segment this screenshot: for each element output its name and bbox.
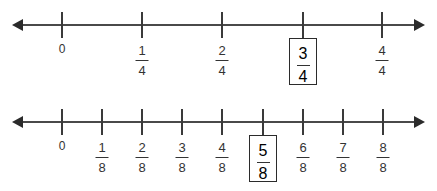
- tick-label-fraction: 44: [376, 44, 389, 77]
- fraction-denominator: 4: [136, 63, 149, 77]
- fraction: 68: [297, 141, 310, 174]
- tick-mark: [141, 109, 143, 135]
- fraction-bar: [136, 157, 149, 158]
- fraction: 48: [216, 141, 229, 174]
- tick-mark: [221, 109, 223, 135]
- tick-mark: [302, 12, 304, 38]
- fraction-denominator: 4: [297, 68, 310, 85]
- number-line-diagram: 01424344401828384858687888: [0, 0, 437, 191]
- fraction-numerator: 3: [297, 46, 310, 63]
- fraction-numerator: 3: [176, 141, 189, 155]
- tick-label-whole: 0: [59, 140, 66, 152]
- fraction-bar: [337, 157, 350, 158]
- arrow-right-icon: [414, 19, 425, 31]
- tick-label-fraction: 68: [297, 141, 310, 174]
- fraction-numerator: 1: [136, 44, 149, 58]
- highlighted-fraction-box: 58: [249, 135, 277, 182]
- fraction: 88: [377, 141, 390, 174]
- axis-line: [22, 24, 415, 26]
- fraction-bar: [96, 157, 109, 158]
- arrow-left-icon: [12, 116, 23, 128]
- fraction-bar: [377, 157, 390, 158]
- fraction-bar: [136, 60, 149, 61]
- fraction-denominator: 4: [376, 63, 389, 77]
- tick-mark: [141, 12, 143, 38]
- fraction: 34: [297, 46, 310, 85]
- fraction-numerator: 1: [96, 141, 109, 155]
- fraction-numerator: 8: [377, 141, 390, 155]
- tick-mark: [181, 109, 183, 135]
- fraction-numerator: 6: [297, 141, 310, 155]
- tick-label-fraction: 48: [216, 141, 229, 174]
- tick-label-whole: 0: [59, 43, 66, 55]
- fraction: 24: [216, 44, 229, 77]
- tick-mark: [381, 12, 383, 38]
- fraction-denominator: 8: [136, 160, 149, 174]
- fraction-denominator: 8: [216, 160, 229, 174]
- arrow-left-icon: [12, 19, 23, 31]
- fraction: 58: [257, 143, 270, 182]
- fraction-denominator: 4: [216, 63, 229, 77]
- highlighted-fraction-box: 34: [289, 38, 317, 85]
- tick-mark: [61, 12, 63, 38]
- tick-label-fraction: 24: [216, 44, 229, 77]
- fraction-bar: [297, 157, 310, 158]
- fraction-bar: [376, 60, 389, 61]
- fraction: 18: [96, 141, 109, 174]
- fraction: 38: [176, 141, 189, 174]
- fraction: 28: [136, 141, 149, 174]
- fraction-numerator: 2: [216, 44, 229, 58]
- tick-label-fraction: 38: [176, 141, 189, 174]
- arrow-right-icon: [414, 116, 425, 128]
- fraction-bar: [297, 65, 310, 66]
- fraction-bar: [257, 162, 270, 163]
- tick-mark: [221, 12, 223, 38]
- axis-line: [22, 121, 415, 123]
- fraction-numerator: 4: [216, 141, 229, 155]
- fraction: 44: [376, 44, 389, 77]
- fraction-numerator: 4: [376, 44, 389, 58]
- tick-label-fraction: 14: [136, 44, 149, 77]
- tick-label-fraction: 88: [377, 141, 390, 174]
- fraction-denominator: 8: [377, 160, 390, 174]
- tick-mark: [382, 109, 384, 135]
- fraction-denominator: 8: [257, 165, 270, 182]
- tick-mark: [342, 109, 344, 135]
- fraction: 78: [337, 141, 350, 174]
- tick-label-fraction: 28: [136, 141, 149, 174]
- tick-mark: [262, 109, 264, 135]
- tick-mark: [302, 109, 304, 135]
- tick-mark: [101, 109, 103, 135]
- tick-mark: [61, 109, 63, 135]
- tick-label-fraction: 78: [337, 141, 350, 174]
- fraction-numerator: 5: [257, 143, 270, 160]
- fraction-denominator: 8: [176, 160, 189, 174]
- tick-label-fraction: 18: [96, 141, 109, 174]
- fraction-denominator: 8: [96, 160, 109, 174]
- fraction-bar: [216, 157, 229, 158]
- fraction-numerator: 7: [337, 141, 350, 155]
- fraction-bar: [216, 60, 229, 61]
- fraction-denominator: 8: [297, 160, 310, 174]
- fraction-bar: [176, 157, 189, 158]
- fraction: 14: [136, 44, 149, 77]
- fraction-denominator: 8: [337, 160, 350, 174]
- fraction-numerator: 2: [136, 141, 149, 155]
